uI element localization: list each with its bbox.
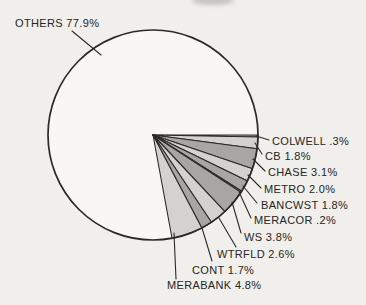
label-others: OTHERS 77.9% bbox=[15, 17, 99, 29]
label-chase: CHASE 3.1% bbox=[268, 166, 338, 178]
label-meracor: MERACOR .2% bbox=[254, 214, 336, 226]
label-wtrfld: WTRFLD 2.6% bbox=[217, 248, 295, 260]
label-bancwst: BANCWST 1.8% bbox=[261, 199, 348, 211]
label-merabank: MERABANK 4.8% bbox=[167, 279, 261, 291]
slice-labels: COLWELL .3%CB 1.8%CHASE 3.1%METRO 2.0%BA… bbox=[0, 0, 366, 305]
label-cb: CB 1.8% bbox=[265, 150, 311, 162]
label-colwell: COLWELL .3% bbox=[272, 135, 349, 147]
label-metro: METRO 2.0% bbox=[264, 183, 335, 195]
label-ws: WS 3.8% bbox=[244, 231, 292, 243]
pie-chart-figure: COLWELL .3%CB 1.8%CHASE 3.1%METRO 2.0%BA… bbox=[0, 0, 366, 305]
label-cont: CONT 1.7% bbox=[192, 264, 254, 276]
